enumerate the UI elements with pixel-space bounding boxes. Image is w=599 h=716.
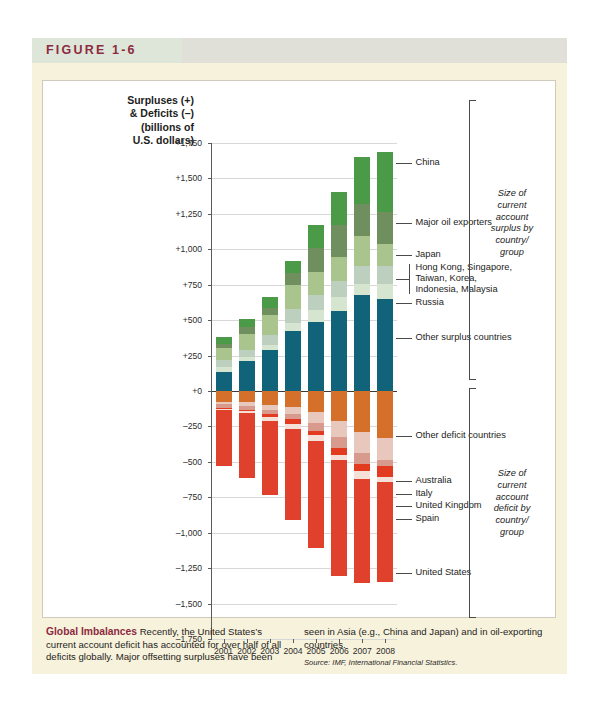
callout-leader-line xyxy=(396,255,412,256)
bar-segment xyxy=(239,334,255,350)
bar-segment xyxy=(354,295,370,391)
bar-group xyxy=(308,143,324,639)
bar-segment xyxy=(308,322,324,391)
bar-segment xyxy=(354,266,370,284)
callout-leader-line xyxy=(396,506,412,507)
y-tick-label: –750 xyxy=(142,492,202,502)
bar-segment xyxy=(308,248,324,272)
bar-segment xyxy=(331,192,347,225)
figure-page: FIGURE 1-6 Surpluses (+)& Deficits (–)(b… xyxy=(0,0,599,716)
callout-label: China xyxy=(415,157,439,169)
bar-segment xyxy=(331,421,347,436)
bracket-label-line: surplus by xyxy=(481,223,543,235)
caption-headline: Global Imbalances xyxy=(46,626,137,637)
y-tick-label: +250 xyxy=(142,351,202,361)
caption-column-1: Global Imbalances Recently, the United S… xyxy=(46,626,288,664)
y-tick-label: –250 xyxy=(142,421,202,431)
y-tick-mark xyxy=(208,462,212,463)
bar-segment xyxy=(377,266,393,284)
bar-segment xyxy=(216,348,232,360)
bar-segment xyxy=(239,361,255,391)
bar-segment xyxy=(377,212,393,244)
bar-segment xyxy=(285,309,301,322)
bar-segment xyxy=(262,315,278,334)
callout-group-leader-line xyxy=(396,279,410,280)
bracket-label-line: account xyxy=(481,492,543,504)
y-tick-mark xyxy=(208,356,212,357)
callout-label: Taiwan, Korea, xyxy=(415,273,477,285)
callout-leader-line xyxy=(396,519,412,520)
bar-segment xyxy=(216,360,232,367)
caption-column-2: seen in Asia (e.g., China and Japan) and… xyxy=(304,626,546,651)
callout-label: Russia xyxy=(415,297,443,309)
y-tick-label: –1,000 xyxy=(142,528,202,538)
callout-label: Indonesia, Malaysia xyxy=(415,284,497,296)
bar-segment xyxy=(262,335,278,345)
y-axis-title-line: Surpluses (+) xyxy=(84,94,194,107)
bar-segment xyxy=(354,236,370,266)
bar-segment xyxy=(285,261,301,273)
bracket-label-line: current xyxy=(481,480,543,492)
bracket-label-line: country/ xyxy=(481,515,543,527)
bracket-label-line: group xyxy=(481,247,543,259)
y-tick-label: –1,250 xyxy=(142,563,202,573)
bracket-label-line: group xyxy=(481,527,543,539)
callout-leader-line xyxy=(396,494,412,495)
callout-leader-line xyxy=(396,223,412,224)
y-tick-mark xyxy=(208,285,212,286)
bar-segment xyxy=(331,225,347,257)
bar-segment xyxy=(331,437,347,448)
y-tick-label: +0 xyxy=(142,386,202,396)
bar-segment xyxy=(331,311,347,391)
callout-label: Spain xyxy=(415,513,439,525)
y-tick-mark xyxy=(208,178,212,179)
bracket-top-arm xyxy=(469,100,476,101)
bar-segment xyxy=(354,479,370,583)
callout-leader-line xyxy=(396,163,412,164)
y-tick-mark xyxy=(208,391,212,392)
caption-source: Source: IMF, International Financial Sta… xyxy=(304,658,554,667)
y-axis-title-line: & Deficits (–) xyxy=(84,107,194,120)
bar-group xyxy=(262,143,278,639)
y-tick-mark xyxy=(208,143,212,144)
y-tick-label: +500 xyxy=(142,315,202,325)
bar-segment xyxy=(308,441,324,548)
bar-segment xyxy=(308,310,324,322)
bar-segment xyxy=(354,204,370,236)
bracket-bottom-arm xyxy=(469,379,476,380)
y-tick-label: +1,500 xyxy=(142,173,202,183)
bar-segment xyxy=(354,391,370,432)
callout-leader-line xyxy=(396,436,412,437)
bar-segment xyxy=(331,281,347,297)
y-tick-mark xyxy=(208,604,212,605)
bar-segment xyxy=(308,295,324,309)
bar-segment xyxy=(262,421,278,495)
bar-segment xyxy=(308,391,324,412)
y-tick-label: –1,500 xyxy=(142,599,202,609)
plot-area: 20012002200320042005200620072008 xyxy=(212,143,397,639)
bar-segment xyxy=(308,423,324,431)
bracket-spine xyxy=(469,100,470,380)
y-tick-label: –500 xyxy=(142,457,202,467)
bar-segment xyxy=(377,391,393,438)
bar-segment xyxy=(377,466,393,477)
callout-label: Hong Kong, Singapore, xyxy=(415,262,512,274)
bar-segment xyxy=(262,350,278,391)
callout-label: United States xyxy=(415,567,471,579)
bar-segment xyxy=(262,297,278,308)
y-tick-label: +1,750 xyxy=(142,138,202,148)
bar-segment xyxy=(331,460,347,575)
bar-segment xyxy=(285,429,301,520)
bar-segment xyxy=(285,323,301,331)
callout-leader-line xyxy=(396,573,412,574)
bar-segment xyxy=(262,391,278,405)
figure-panel: FIGURE 1-6 Surpluses (+)& Deficits (–)(b… xyxy=(32,38,567,674)
bar-segment xyxy=(285,273,301,285)
bar-segment xyxy=(377,244,393,266)
bar-segment xyxy=(285,331,301,391)
bar-segment xyxy=(354,464,370,471)
bar-segment xyxy=(354,157,370,204)
bar-segment xyxy=(377,152,393,212)
bar-segment xyxy=(354,432,370,453)
bar-group xyxy=(377,143,393,639)
